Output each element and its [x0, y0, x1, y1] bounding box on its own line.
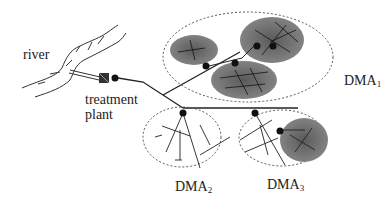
dma3-label: DMA3 [267, 177, 304, 196]
plant-label: plant [85, 107, 113, 122]
water-network-diagram [0, 0, 392, 209]
zone-2 [240, 17, 304, 63]
dma1-label: DMA1 [344, 73, 381, 92]
zone-3 [211, 61, 277, 99]
dma2-label: DMA2 [175, 179, 212, 198]
river-label: river [23, 47, 49, 62]
treatment-label: treatment [85, 92, 138, 107]
